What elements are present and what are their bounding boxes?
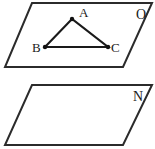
lower-plane-outline xyxy=(5,85,152,145)
vertex-label-b: B xyxy=(32,40,41,55)
triangle-abc-outline xyxy=(45,19,108,47)
vertex-label-c: C xyxy=(111,40,120,55)
vertex-dot-c xyxy=(106,45,110,49)
plane-label-o: O xyxy=(136,7,146,22)
vertex-label-a: A xyxy=(79,5,89,20)
vertex-dot-a xyxy=(70,17,74,21)
geometry-diagram: A B C O N xyxy=(0,0,155,149)
plane-label-n: N xyxy=(133,89,143,104)
vertex-dot-b xyxy=(43,45,47,49)
